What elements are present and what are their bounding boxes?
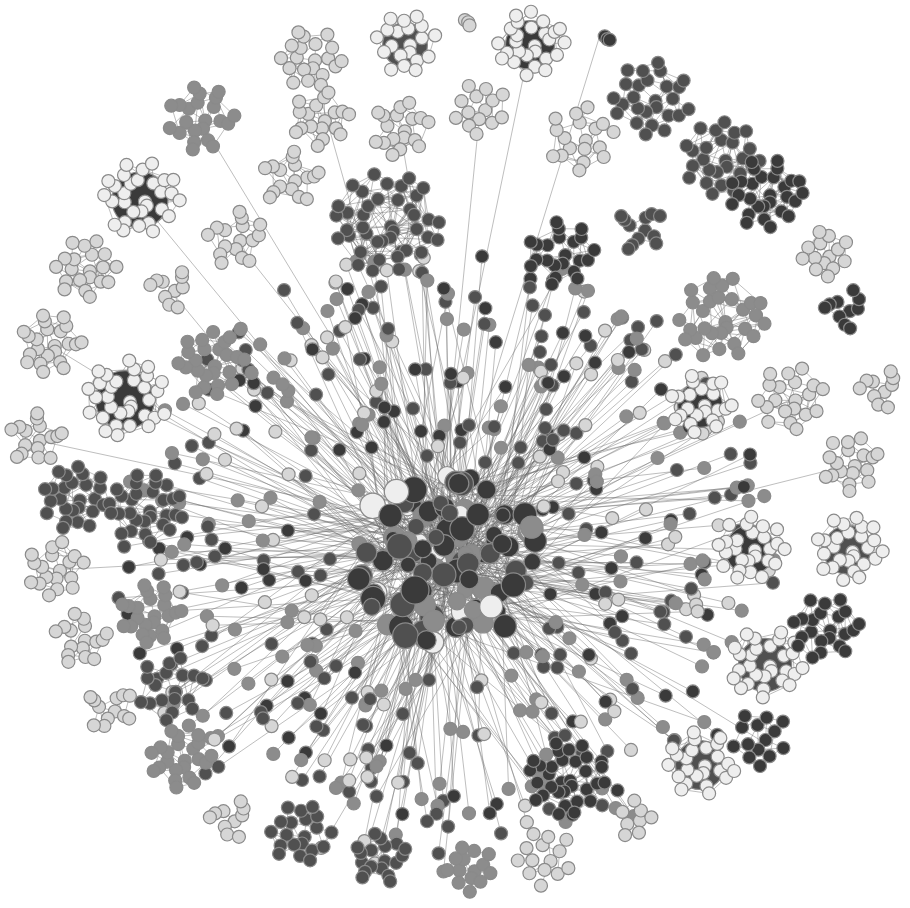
node bbox=[630, 332, 643, 345]
node bbox=[758, 317, 771, 330]
node bbox=[573, 164, 586, 177]
node bbox=[827, 514, 840, 527]
node bbox=[557, 370, 570, 383]
node bbox=[793, 175, 806, 188]
node bbox=[615, 210, 628, 223]
node bbox=[756, 691, 769, 704]
node bbox=[841, 436, 854, 449]
node bbox=[578, 142, 591, 155]
node bbox=[447, 790, 460, 803]
node bbox=[349, 666, 362, 679]
node bbox=[377, 698, 390, 711]
node bbox=[171, 301, 184, 314]
node bbox=[479, 302, 492, 315]
node bbox=[538, 863, 551, 876]
node bbox=[607, 125, 620, 138]
node bbox=[853, 382, 866, 395]
node bbox=[745, 156, 758, 169]
node bbox=[256, 712, 269, 725]
node bbox=[205, 749, 218, 762]
node bbox=[445, 367, 458, 380]
node bbox=[502, 782, 515, 795]
node bbox=[698, 462, 711, 475]
node bbox=[520, 816, 533, 829]
node bbox=[691, 605, 704, 618]
node bbox=[562, 862, 575, 875]
node bbox=[608, 626, 621, 639]
node bbox=[550, 216, 563, 229]
node bbox=[322, 368, 335, 381]
node bbox=[710, 420, 723, 433]
node bbox=[37, 309, 50, 322]
node bbox=[457, 323, 470, 336]
node bbox=[146, 157, 159, 170]
node bbox=[408, 208, 421, 221]
node bbox=[777, 715, 790, 728]
node bbox=[579, 419, 592, 432]
node bbox=[431, 440, 444, 453]
node bbox=[332, 200, 345, 213]
node bbox=[599, 597, 612, 610]
node bbox=[558, 36, 571, 49]
node bbox=[78, 239, 91, 252]
node bbox=[645, 811, 658, 824]
node bbox=[501, 573, 525, 597]
node bbox=[231, 494, 244, 507]
node bbox=[259, 162, 272, 175]
node bbox=[743, 751, 756, 764]
node bbox=[511, 854, 524, 867]
node bbox=[410, 10, 423, 23]
node bbox=[512, 456, 525, 469]
node bbox=[382, 322, 395, 335]
node bbox=[628, 363, 641, 376]
node bbox=[853, 617, 866, 630]
node bbox=[448, 593, 465, 610]
node bbox=[285, 39, 298, 52]
node bbox=[168, 692, 181, 705]
node bbox=[256, 534, 269, 547]
node bbox=[87, 719, 100, 732]
node bbox=[233, 205, 246, 218]
node bbox=[335, 55, 348, 68]
node bbox=[683, 171, 696, 184]
node bbox=[625, 647, 638, 660]
node bbox=[449, 111, 462, 124]
node bbox=[449, 473, 469, 493]
node bbox=[83, 519, 96, 532]
node bbox=[274, 52, 287, 65]
node bbox=[321, 28, 334, 41]
node bbox=[639, 128, 652, 141]
node bbox=[228, 662, 241, 675]
node bbox=[370, 31, 383, 44]
node bbox=[273, 847, 286, 860]
node bbox=[675, 783, 688, 796]
node bbox=[57, 311, 70, 324]
node bbox=[628, 794, 641, 807]
node bbox=[340, 258, 353, 271]
node bbox=[478, 728, 491, 741]
node bbox=[575, 222, 588, 235]
node bbox=[165, 545, 178, 558]
node bbox=[545, 358, 558, 371]
node bbox=[683, 388, 696, 401]
node bbox=[763, 750, 776, 763]
node bbox=[356, 871, 369, 884]
node bbox=[762, 415, 775, 428]
node bbox=[100, 627, 113, 640]
node bbox=[25, 576, 38, 589]
node bbox=[186, 702, 199, 715]
node bbox=[208, 428, 221, 441]
node bbox=[212, 85, 225, 98]
node bbox=[155, 694, 168, 707]
node bbox=[386, 148, 399, 161]
node bbox=[108, 218, 121, 231]
node bbox=[611, 107, 624, 120]
node bbox=[94, 471, 107, 484]
node bbox=[577, 306, 590, 319]
node bbox=[871, 448, 884, 461]
node bbox=[72, 460, 85, 473]
node bbox=[847, 284, 860, 297]
node bbox=[322, 86, 335, 99]
node bbox=[318, 672, 331, 685]
node bbox=[732, 347, 745, 360]
